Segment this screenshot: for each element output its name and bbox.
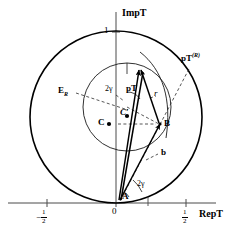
label-vector-pt: pT bbox=[126, 84, 137, 93]
label-chord-b: b bbox=[161, 148, 166, 157]
origin-label: 0 bbox=[112, 207, 117, 216]
complex-plane-diagram: ImpT RepT 1 0 −12 12 ER C C′ B A pT pT(R… bbox=[0, 0, 244, 230]
label-point-A: A bbox=[122, 192, 129, 201]
tick-label-minus-half: −12 bbox=[36, 208, 47, 225]
fraction-minus-half: 12 bbox=[41, 209, 47, 225]
fraction-plus-half: 12 bbox=[182, 209, 188, 225]
label-angle-bottom: 2γ bbox=[137, 180, 145, 188]
axis-label-imaginary: ImpT bbox=[122, 8, 146, 18]
tick-label-one: 1 bbox=[104, 26, 109, 35]
label-vector-pt-r: pT(R) bbox=[181, 52, 200, 63]
axis-label-real: RepT bbox=[199, 209, 223, 219]
label-pt-r-base: pT bbox=[181, 53, 192, 63]
tick-label-plus-half: 12 bbox=[182, 208, 188, 225]
dot-center-C bbox=[107, 122, 111, 126]
axes-group bbox=[8, 12, 216, 207]
label-ER: ER bbox=[58, 86, 68, 97]
angle-top-leader bbox=[116, 95, 124, 101]
fraction-denominator: 2 bbox=[182, 218, 188, 225]
label-center-C-prime: C′ bbox=[120, 108, 129, 117]
label-pt-r-superscript: (R) bbox=[192, 52, 200, 58]
dot-B bbox=[158, 122, 161, 125]
label-point-B: B bbox=[164, 119, 170, 128]
label-angle-top: 2γ bbox=[105, 85, 113, 93]
fraction-denominator: 2 bbox=[41, 218, 47, 225]
label-center-C: C bbox=[98, 118, 105, 127]
label-radius-r: r bbox=[154, 89, 158, 98]
b-leader-line bbox=[146, 154, 158, 160]
label-ER-subscript: R bbox=[64, 91, 68, 97]
